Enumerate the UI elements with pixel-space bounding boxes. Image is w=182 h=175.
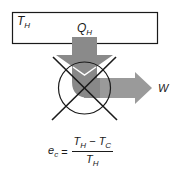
- numerator-minus: −: [86, 135, 99, 147]
- carnot-engine-diagram: TH QH W ec = TH − TC TH: [0, 0, 182, 175]
- heat-in-label-main: Q: [77, 21, 86, 35]
- denominator-main: T: [86, 153, 93, 165]
- equation-lhs-sub: c: [54, 150, 58, 159]
- efficiency-equation: ec = TH − TC TH: [48, 135, 113, 168]
- work-label-main: W: [158, 82, 168, 94]
- reservoir-label-sub: H: [24, 21, 30, 30]
- numerator-b-sub: C: [105, 141, 111, 150]
- equation-denominator: TH: [86, 152, 99, 168]
- equation-lhs: ec: [48, 144, 58, 159]
- work-label: W: [158, 83, 168, 94]
- equation-equals: =: [61, 146, 67, 158]
- equation-fraction: TH − TC TH: [72, 135, 114, 168]
- equation-numerator: TH − TC: [72, 135, 114, 152]
- reservoir-label: TH: [17, 15, 30, 30]
- heat-in-label: QH: [77, 22, 92, 37]
- denominator-sub: H: [93, 159, 99, 168]
- heat-in-label-sub: H: [86, 28, 92, 37]
